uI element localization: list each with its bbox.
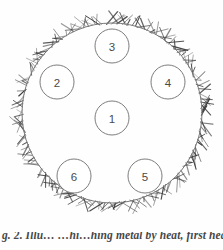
hatch-tick	[106, 12, 117, 25]
callout-label: 6	[71, 171, 77, 183]
callout-label: 4	[165, 77, 172, 89]
hatch-tick	[71, 24, 82, 28]
figure-diagram: 123456	[0, 0, 223, 232]
hatch-tick	[197, 81, 209, 87]
callout-label: 2	[54, 77, 60, 89]
callout-3: 3	[95, 29, 129, 63]
hatch-tick	[17, 136, 26, 147]
callout-label: 5	[142, 171, 148, 183]
hatch-tick	[18, 154, 32, 156]
hatch-tick	[18, 135, 26, 145]
hatch-tick	[38, 168, 42, 177]
callout-circles: 123456	[40, 29, 185, 193]
hatch-tick	[23, 142, 27, 144]
callout-4: 4	[151, 65, 185, 99]
callout-1: 1	[95, 101, 129, 135]
hatch-tick	[49, 178, 50, 186]
callout-label: 1	[109, 113, 115, 125]
figure-svg: 123456	[0, 0, 223, 232]
callout-2: 2	[40, 65, 74, 99]
hatch-tick	[167, 41, 184, 43]
hatch-tick	[156, 22, 158, 34]
hatch-tick	[162, 188, 171, 194]
hatch-tick	[175, 178, 186, 181]
callout-5: 5	[128, 159, 162, 193]
page-canvas: 123456 g. 2. Illu… …hi…hing metal by hea…	[0, 0, 223, 250]
caption-strip: g. 2. Illu… …hi…hing metal by heat, firs…	[0, 232, 223, 250]
hatch-tick	[195, 147, 201, 162]
figure-caption: g. 2. Illu… …hi…hing metal by heat, firs…	[2, 232, 223, 241]
callout-label: 3	[109, 41, 115, 53]
hatch-tick	[108, 12, 118, 24]
callout-6: 6	[57, 159, 91, 193]
